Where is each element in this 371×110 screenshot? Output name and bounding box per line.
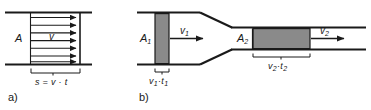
panel-a-group [5, 13, 92, 76]
velocity-label-v1: v1 [180, 26, 189, 37]
dimension-brace-b-inlet [155, 69, 169, 75]
dimension-brace-a [31, 69, 80, 76]
swept-length-label-inlet: v1·t1 [149, 77, 168, 87]
panel-caption-b: b) [139, 92, 149, 103]
figure-svg [0, 0, 371, 110]
area-label-a1-sub: 1 [147, 38, 151, 45]
swept-length-label-outlet: v2·t2 [268, 62, 287, 72]
swept-length-outlet-sub2: 2 [283, 65, 287, 72]
panel-b-group [137, 13, 366, 75]
velocity-label-a: v [49, 32, 54, 42]
pipe-b-taper-bottom [200, 50, 232, 65]
area-label-a1: A1 [140, 33, 151, 45]
velocity-label-v1-sub: 1 [185, 30, 189, 37]
dimension-brace-b-outlet [253, 54, 310, 60]
area-label-a2: A2 [237, 33, 248, 45]
inlet-swept-volume-block [155, 14, 169, 64]
swept-length-inlet-sub2: 1 [164, 80, 168, 87]
panel-caption-a: a) [8, 92, 18, 103]
area-label-a: A [15, 33, 22, 44]
area-label-a2-sub: 2 [244, 38, 248, 45]
figure-root: A v s = v · t a) A1 v1 v1·t1 A2 v2 v2·t2… [0, 0, 371, 110]
velocity-label-v2: v2 [320, 26, 329, 37]
pipe-b-taper-top [200, 13, 232, 28]
distance-equation-a: s = v · t [35, 78, 67, 87]
velocity-label-v2-sub: 2 [325, 30, 329, 37]
outlet-swept-volume-block [253, 29, 310, 49]
